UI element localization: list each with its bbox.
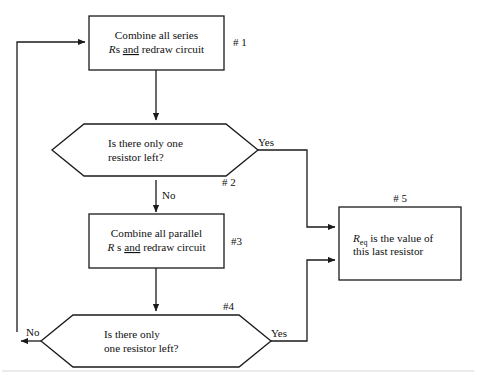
node-n5-line2: this last resistor (353, 245, 424, 257)
node-n1-line1: Combine all series (115, 29, 198, 41)
node-n5-tag: # 5 (393, 192, 407, 204)
node-n4-line1: Is there only (104, 328, 160, 340)
node-n3-line2: R s and redraw circuit (106, 241, 206, 253)
node-n3-and-text: and (124, 241, 141, 253)
edge-label-n2-no: No (162, 189, 176, 201)
node-n3-tag: #3 (231, 235, 243, 247)
node-n3-s-text: s (114, 241, 124, 253)
edge-label-n2-yes: Yes (258, 136, 274, 148)
flowchart-canvas: Combine all series Rs and redraw circuit… (0, 0, 477, 377)
node-n2-line1: Is there only one (108, 137, 183, 149)
flowchart-svg: Combine all series Rs and redraw circuit… (0, 0, 477, 377)
node-n1-line2: Rs and redraw circuit (108, 43, 205, 55)
node-n2-line2: resistor left? (108, 151, 164, 163)
node-n1-r-symbol: R (108, 43, 116, 55)
connector-n2-yes-to-n5 (258, 150, 335, 227)
node-n4-line2: one resistor left? (104, 342, 179, 354)
node-n1-tail-text: redraw circuit (139, 43, 205, 55)
node-n1-tag: # 1 (233, 36, 247, 48)
node-n1-s-text: s (116, 43, 123, 55)
node-one-resistor-left-second-decision[interactable] (41, 315, 271, 367)
node-n4-tag: #4 (223, 300, 235, 312)
node-n2-tag: # 2 (222, 176, 236, 188)
node-n3-line1: Combine all parallel (111, 227, 202, 239)
node-n1-and-text: and (123, 43, 140, 55)
edge-label-n4-yes: Yes (271, 327, 287, 339)
node-n3-r-symbol: R (106, 241, 114, 253)
node-n5-line1-tail: is the value of (367, 232, 433, 244)
node-one-resistor-left-first-decision[interactable] (52, 124, 258, 176)
node-n5-req-symbol: R (352, 232, 360, 244)
edge-label-n4-no: No (26, 326, 40, 338)
connector-feedback-loop (17, 42, 85, 332)
node-n3-tail-text: redraw circuit (140, 241, 206, 253)
